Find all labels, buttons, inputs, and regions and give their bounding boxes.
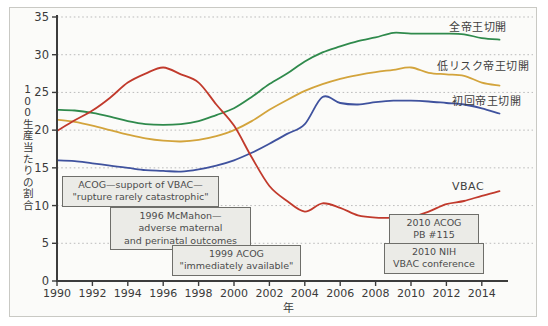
svg-text:2010: 2010 [397, 287, 425, 300]
annotation-line: 1996 McMahon— [114, 210, 247, 222]
svg-text:2000: 2000 [220, 287, 248, 300]
annotation-line: PB #115 [393, 229, 475, 241]
annotation-line: ACOG—support of VBAC— [66, 179, 215, 191]
svg-text:2014: 2014 [468, 287, 496, 300]
svg-text:2008: 2008 [362, 287, 390, 300]
svg-text:20: 20 [34, 123, 49, 137]
annotation-line: adverse maternal [114, 222, 247, 234]
svg-text:1990: 1990 [43, 287, 71, 300]
svg-text:1998: 1998 [185, 287, 213, 300]
svg-text:10: 10 [34, 199, 49, 213]
annotation-line: "rupture rarely catastrophic" [66, 191, 215, 203]
svg-text:0: 0 [42, 274, 49, 288]
annotation-2010-acog-pb115: 2010 ACOG PB #115 [389, 214, 479, 245]
annotation-2010-nih-conference: 2010 NIH VBAC conference [384, 243, 484, 274]
svg-text:30: 30 [34, 48, 49, 62]
svg-text:35: 35 [34, 10, 49, 24]
y-axis-title: 1 0 0 生 産 当 た り の 割 合 [21, 84, 34, 212]
svg-text:5: 5 [42, 236, 49, 250]
svg-text:2006: 2006 [326, 287, 354, 300]
chart-figure: 0510152025303519901992199419961998200020… [0, 0, 548, 326]
annotation-line: 1999 ACOG [176, 248, 297, 260]
annotation-line: 2010 ACOG [393, 217, 475, 229]
svg-text:1994: 1994 [114, 287, 142, 300]
line-chart-plot: 0510152025303519901992199419961998200020… [0, 0, 548, 326]
series-label-primary-cesarean: 初回帝王切開 [452, 92, 521, 108]
annotation-line: 2010 NIH [388, 246, 480, 258]
series-label-low-risk-cesarean: 低リスク帝王切開 [437, 57, 529, 73]
svg-text:2002: 2002 [255, 287, 283, 300]
svg-text:15: 15 [34, 161, 49, 175]
annotation-line: VBAC conference [388, 258, 480, 270]
svg-text:2012: 2012 [432, 287, 460, 300]
series-label-vbac: VBAC [452, 180, 484, 193]
svg-text:25: 25 [34, 85, 49, 99]
svg-text:1996: 1996 [149, 287, 177, 300]
annotation-1999-acog: 1999 ACOG "immediately available" [172, 245, 301, 276]
x-axis-title: 年 [283, 299, 294, 315]
svg-text:2004: 2004 [291, 287, 319, 300]
annotation-line: "immediately available" [176, 260, 297, 272]
annotation-acog-vbac-support: ACOG—support of VBAC— "rupture rarely ca… [62, 176, 219, 207]
annotation-1996-mcmahon: 1996 McMahon— adverse maternal and perin… [110, 207, 251, 250]
svg-text:1992: 1992 [78, 287, 106, 300]
series-label-total-cesarean: 全帝王切開 [449, 18, 507, 34]
